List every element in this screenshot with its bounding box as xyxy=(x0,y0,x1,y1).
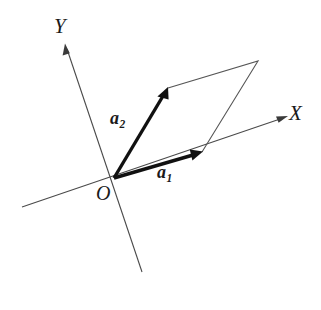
vector-a1-label-base: a xyxy=(157,162,166,182)
vector-a1-label: a1 xyxy=(157,163,172,184)
vector-a2-arrowhead xyxy=(157,87,168,100)
vector-a1-arrowhead xyxy=(190,149,203,160)
y-axis-label: Y xyxy=(54,16,66,37)
vector-a2-label: a2 xyxy=(110,109,125,130)
vector-a2-label-base: a xyxy=(110,108,119,128)
parallelogram-edges xyxy=(168,61,258,152)
x-axis-arrowhead xyxy=(276,116,288,123)
vector-diagram: Y X O a2 a1 xyxy=(0,0,321,310)
x-axis-line xyxy=(22,118,283,207)
y-axis-line xyxy=(67,49,142,272)
origin-label: O xyxy=(96,183,110,203)
vector-a1-label-subscript: 1 xyxy=(166,172,172,184)
vector-a2-label-subscript: 2 xyxy=(119,118,125,130)
diagram-canvas xyxy=(0,0,321,310)
x-axis-label: X xyxy=(289,103,302,124)
